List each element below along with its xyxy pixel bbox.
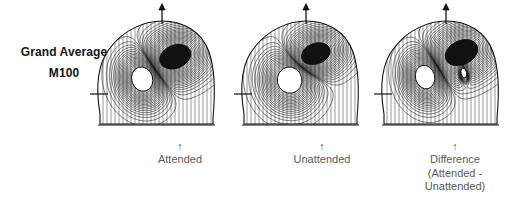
caption-line: Unattended) [385, 180, 520, 194]
caption-line: Attended [110, 153, 250, 167]
up-arrow-icon: ↑ [385, 140, 520, 153]
isofield-contour-plot [372, 2, 512, 144]
up-arrow-icon: ↑ [110, 140, 250, 153]
caption-attended: ↑ Attended [110, 140, 250, 167]
isofield-contour-plot [232, 2, 372, 144]
caption-line: (Attended - [385, 167, 520, 181]
field-map-unattended [232, 2, 372, 144]
isofield-contour-plot [88, 2, 228, 144]
up-arrow-icon: ↑ [252, 140, 392, 153]
field-map-difference [372, 2, 512, 144]
caption-difference: ↑ Difference (Attended - Unattended) [385, 140, 520, 194]
caption-unattended: ↑ Unattended [252, 140, 392, 167]
caption-line: Unattended [252, 153, 392, 167]
figure-root: Grand Average M100 ↑ Attended ↑ Unattend… [0, 0, 520, 204]
field-map-attended [88, 2, 228, 144]
caption-line: Difference [385, 153, 520, 167]
